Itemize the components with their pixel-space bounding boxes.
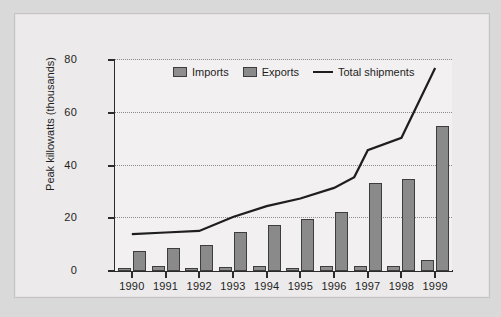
legend-swatch-icon (173, 67, 187, 77)
legend-line-icon (313, 71, 333, 73)
x-tick-mark (165, 272, 167, 278)
chart-legend: ImportsExportsTotal shipments (173, 66, 414, 78)
x-tick-mark (333, 272, 335, 278)
legend-label: Total shipments (338, 66, 414, 78)
total-shipments-line (115, 60, 452, 271)
y-tick-label: 60 (37, 106, 77, 118)
y-axis-label: Peak killowatts (thousands) (44, 44, 56, 204)
chart-panel: 020406080 199019911992199319941995199619… (14, 13, 490, 298)
legend-item-total-shipments: Total shipments (313, 66, 414, 78)
y-tick-label: 40 (37, 159, 77, 171)
x-tick-mark (367, 272, 369, 278)
x-tick-mark (232, 272, 234, 278)
x-tick-mark (131, 272, 133, 278)
y-tick-mark (108, 112, 115, 114)
legend-label: Imports (192, 66, 229, 78)
y-tick-mark (108, 59, 115, 61)
x-tick-label: 1999 (413, 280, 457, 292)
x-tick-mark (400, 272, 402, 278)
figure-background: 020406080 199019911992199319941995199619… (0, 0, 501, 317)
y-tick-mark (108, 217, 115, 219)
legend-item-exports: Exports (243, 66, 299, 78)
y-tick-mark (108, 165, 115, 167)
x-tick-mark (198, 272, 200, 278)
legend-swatch-icon (243, 67, 257, 77)
legend-item-imports: Imports (173, 66, 229, 78)
x-tick-mark (299, 272, 301, 278)
y-tick-label: 0 (37, 264, 77, 276)
y-tick-mark (108, 270, 115, 272)
y-tick-label: 80 (37, 53, 77, 65)
x-tick-mark (266, 272, 268, 278)
legend-label: Exports (262, 66, 299, 78)
x-tick-mark (434, 272, 436, 278)
y-tick-label: 20 (37, 211, 77, 223)
